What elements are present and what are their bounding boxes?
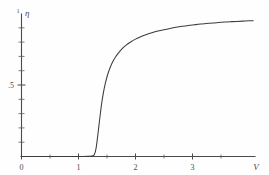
x-tick-label-3: 3 — [191, 163, 195, 172]
line-chart-canvas: 1 .5 0 1 2 3 η V — [0, 0, 269, 175]
x-axis-label: V — [253, 162, 260, 172]
x-tick-label-2: 2 — [134, 163, 138, 172]
y-tick-label-0.5: .5 — [8, 81, 14, 90]
y-axis-top-tick-label: 1 — [17, 7, 20, 14]
y-axis-label: η — [25, 8, 30, 18]
chart-figure: 1 .5 0 1 2 3 η V — [0, 0, 269, 175]
series-line-eta — [22, 21, 254, 157]
x-tick-label-0: 0 — [20, 163, 24, 172]
axes-group — [21, 14, 255, 157]
x-tick-label-1: 1 — [77, 163, 81, 172]
